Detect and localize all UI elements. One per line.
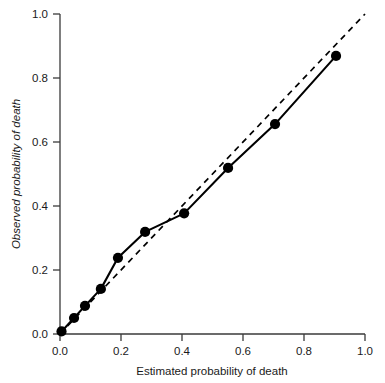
y-tick-labels: 0.0 0.2 0.4 0.6 0.8 1.0	[32, 8, 49, 340]
x-tick-label: 0.8	[296, 345, 312, 357]
plot-series-group	[56, 14, 365, 337]
y-tick-label: 0.4	[32, 200, 49, 212]
x-tick-labels: 0.0 0.2 0.4 0.6 0.8 1.0	[52, 345, 373, 357]
data-point-marker	[140, 227, 150, 237]
data-point-marker	[56, 326, 66, 336]
data-point-marker	[270, 119, 280, 129]
y-tick-marks	[53, 78, 60, 334]
x-tick-label: 0.6	[235, 345, 251, 357]
data-point-marker	[80, 301, 90, 311]
x-tick-label: 0.0	[52, 345, 68, 357]
x-tick-label: 1.0	[357, 345, 373, 357]
y-tick-label: 0.0	[32, 328, 48, 340]
calibration-plot-figure: 0.0 0.2 0.4 0.6 0.8 1.0 0.0 0.2 0.4 0.6 …	[0, 0, 385, 383]
x-axis-title: Estimated probability of death	[136, 365, 288, 377]
reference-diagonal-line	[60, 14, 365, 334]
data-point-marker	[96, 284, 106, 294]
y-tick-label: 0.8	[32, 72, 48, 84]
y-tick-label: 1.0	[32, 8, 48, 20]
x-tick-label: 0.4	[174, 345, 191, 357]
x-tick-marks	[60, 334, 304, 341]
data-point-marker	[331, 51, 341, 61]
x-tick-label: 0.2	[113, 345, 129, 357]
y-tick-label: 0.6	[32, 136, 48, 148]
chart-canvas: 0.0 0.2 0.4 0.6 0.8 1.0 0.0 0.2 0.4 0.6 …	[0, 0, 385, 383]
data-point-marker	[69, 313, 79, 323]
data-point-marker	[179, 208, 189, 218]
y-axis-title: Observed probability of death	[10, 99, 22, 249]
data-point-marker	[113, 253, 123, 263]
y-tick-label: 0.2	[32, 264, 48, 276]
data-point-marker	[223, 163, 233, 173]
